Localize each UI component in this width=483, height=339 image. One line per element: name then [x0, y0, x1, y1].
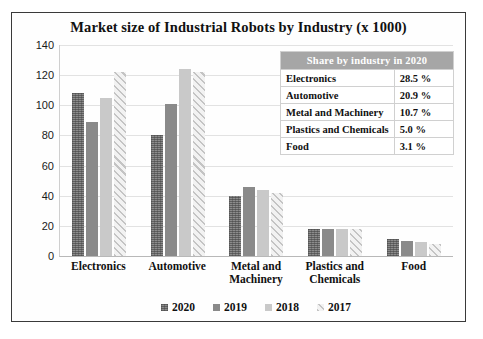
table-row: Metal and Machinery10.7 %	[281, 104, 454, 121]
bar-2018	[257, 190, 269, 256]
y-axis-tick-label: 20	[42, 220, 54, 232]
legend-swatch-icon	[213, 304, 220, 311]
bar-2019	[401, 241, 413, 256]
x-axis-labels: ElectronicsAutomotiveMetal andMachineryP…	[59, 260, 453, 286]
share-industry-cell: Food	[281, 138, 395, 155]
bar-2020	[72, 93, 84, 256]
bar-2017	[350, 229, 362, 256]
x-axis-label: Plastics andChemicals	[295, 260, 374, 286]
bar-group	[139, 45, 218, 256]
bar-2018	[415, 242, 427, 256]
table-row: Electronics28.5 %	[281, 70, 454, 87]
legend-item-2020[interactable]: 2020	[161, 301, 195, 313]
share-value-cell: 10.7 %	[394, 104, 453, 121]
legend-swatch-icon	[265, 304, 272, 311]
y-axis-tick-label: 100	[36, 99, 54, 111]
bar-2017	[193, 72, 205, 256]
legend-item-2017[interactable]: 2017	[317, 301, 351, 313]
y-axis-tick-label: 80	[42, 129, 54, 141]
share-value-cell: 3.1 %	[394, 138, 453, 155]
share-value-cell: 5.0 %	[394, 121, 453, 138]
chart-frame: Market size of Industrial Robots by Indu…	[11, 12, 466, 322]
bar-2019	[86, 122, 98, 256]
bar-2020	[387, 239, 399, 256]
share-table-header-cell: Share by industry in 2020	[281, 52, 454, 70]
bar-2017	[429, 244, 441, 256]
x-axis-label: Metal andMachinery	[217, 260, 296, 286]
legend-swatch-icon	[317, 304, 324, 311]
x-axis-label: Automotive	[138, 260, 217, 286]
legend-swatch-icon	[161, 304, 168, 311]
chart-legend: 2020201920182017	[59, 301, 453, 313]
bar-2018	[336, 229, 348, 256]
share-by-industry-table: Share by industry in 2020Electronics28.5…	[280, 51, 454, 155]
share-industry-cell: Metal and Machinery	[281, 104, 395, 121]
bar-2020	[308, 229, 320, 256]
legend-label: 2018	[276, 301, 299, 313]
bar-2018	[179, 69, 191, 256]
bar-2019	[243, 187, 255, 256]
bar-2019	[322, 229, 334, 256]
share-industry-cell: Electronics	[281, 70, 395, 87]
share-table-body: Share by industry in 2020Electronics28.5…	[281, 52, 454, 155]
share-value-cell: 20.9 %	[394, 87, 453, 104]
chart-title: Market size of Industrial Robots by Indu…	[12, 19, 465, 36]
legend-label: 2020	[172, 301, 195, 313]
x-axis-label: Food	[374, 260, 453, 286]
legend-label: 2019	[224, 301, 247, 313]
y-axis-tick-label: 140	[36, 39, 54, 51]
y-axis-tick-label: 60	[42, 160, 54, 172]
x-axis-label: Electronics	[59, 260, 138, 286]
y-axis-tick-label: 40	[42, 190, 54, 202]
table-row: Automotive20.9 %	[281, 87, 454, 104]
bar-2018	[100, 98, 112, 256]
share-value-cell: 28.5 %	[394, 70, 453, 87]
bar-group	[60, 45, 139, 256]
table-row: Plastics and Chemicals5.0 %	[281, 121, 454, 138]
bar-2017	[114, 72, 126, 256]
bar-2020	[151, 135, 163, 256]
y-axis-tick-label: 0	[48, 250, 54, 262]
bar-2019	[165, 104, 177, 256]
legend-label: 2017	[328, 301, 351, 313]
share-table-header-row: Share by industry in 2020	[281, 52, 454, 70]
bar-2020	[229, 196, 241, 256]
y-axis-tick-label: 120	[36, 69, 54, 81]
bar-2017	[271, 193, 283, 256]
table-row: Food3.1 %	[281, 138, 454, 155]
share-industry-cell: Automotive	[281, 87, 395, 104]
share-industry-cell: Plastics and Chemicals	[281, 121, 395, 138]
legend-item-2018[interactable]: 2018	[265, 301, 299, 313]
legend-item-2019[interactable]: 2019	[213, 301, 247, 313]
